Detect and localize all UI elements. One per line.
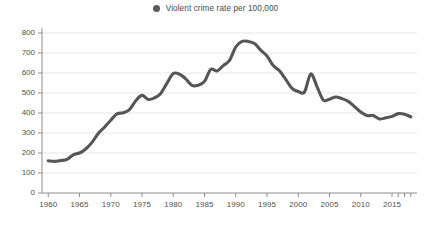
x-axis-tick-labels: 1960196519701975198019851990199520002005…	[39, 200, 401, 209]
y-tick-label: 100	[22, 168, 36, 177]
y-tick-label: 200	[22, 148, 36, 157]
y-axis-tick-labels: 0100200300400500600700800	[22, 28, 36, 197]
x-tick-label: 1985	[196, 200, 214, 209]
x-tick-label: 1995	[258, 200, 276, 209]
series-line-violent-crime-rate	[48, 41, 411, 162]
x-tick-label: 1970	[102, 200, 120, 209]
x-tick-label: 2010	[352, 200, 370, 209]
x-tick-label: 1980	[164, 200, 182, 209]
x-axis-tick-marks	[48, 193, 411, 197]
x-tick-label: 1960	[39, 200, 57, 209]
x-tick-label: 1965	[71, 200, 89, 209]
y-tick-label: 700	[22, 48, 36, 57]
x-tick-label: 2005	[321, 200, 339, 209]
y-tick-label: 300	[22, 128, 36, 137]
y-tick-label: 500	[22, 88, 36, 97]
y-axis-tick-marks	[38, 33, 42, 193]
y-tick-label: 0	[31, 188, 36, 197]
plot-area: 0100200300400500600700800 19601965197019…	[0, 0, 431, 225]
y-tick-label: 800	[22, 28, 36, 37]
gridlines	[42, 33, 417, 173]
x-tick-label: 2015	[383, 200, 401, 209]
violent-crime-line-chart: Violent crime rate per 100,000 010020030…	[0, 0, 431, 225]
x-tick-label: 2000	[289, 200, 307, 209]
y-tick-label: 400	[22, 108, 36, 117]
y-tick-label: 600	[22, 68, 36, 77]
x-tick-label: 1975	[133, 200, 151, 209]
x-tick-label: 1990	[227, 200, 245, 209]
